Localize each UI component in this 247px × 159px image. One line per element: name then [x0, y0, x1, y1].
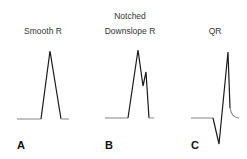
waveform-a-smooth-r: [17, 51, 69, 119]
panel-a-label: A: [17, 139, 25, 151]
panel-b-label: B: [105, 139, 113, 151]
waveform-b-notched-downslope-r: [105, 50, 154, 118]
panel-c-label: C: [191, 139, 199, 151]
ecg-waveforms: [0, 0, 247, 159]
waveform-c-qr: [191, 52, 239, 144]
